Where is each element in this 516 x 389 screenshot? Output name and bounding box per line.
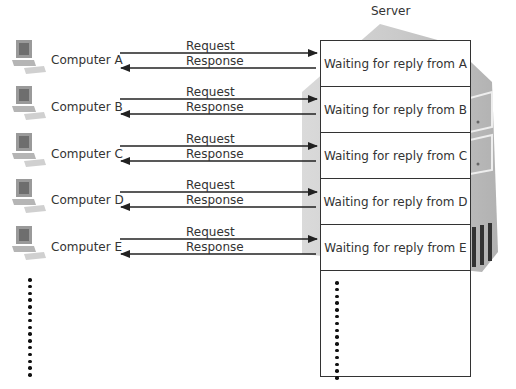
request-b-label: Request xyxy=(186,86,235,99)
more-clients-ellipsis xyxy=(28,278,32,380)
computer-c-label: Computer C xyxy=(51,147,123,161)
desktop-computer-icon xyxy=(10,40,48,76)
request-a-label: Request xyxy=(186,40,235,53)
response-b-label: Response xyxy=(186,101,244,114)
request-d-label: Request xyxy=(186,179,235,192)
computer-b-label: Computer B xyxy=(51,100,123,114)
response-e-label: Response xyxy=(186,241,244,254)
desktop-computer-icon xyxy=(10,226,48,262)
request-e-label: Request xyxy=(186,226,235,239)
request-c-label: Request xyxy=(186,133,235,146)
computer-d-label: Computer D xyxy=(51,193,124,207)
response-a-label: Response xyxy=(186,55,244,68)
desktop-computer-icon xyxy=(10,179,48,215)
computer-a-label: Computer A xyxy=(51,53,123,67)
computer-e-label: Computer E xyxy=(51,240,122,254)
response-d-label: Response xyxy=(186,194,244,207)
desktop-computer-icon xyxy=(10,133,48,169)
desktop-computer-icon xyxy=(10,86,48,122)
response-c-label: Response xyxy=(186,148,244,161)
